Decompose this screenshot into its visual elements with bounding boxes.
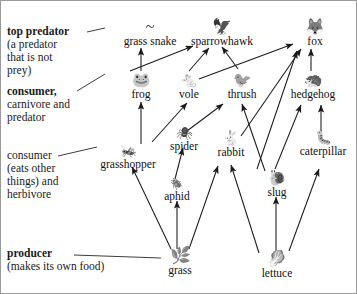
grasshopper-icon: 🦗	[89, 144, 167, 158]
arrow-thrush-to-sparrowhawk	[222, 47, 238, 69]
organism-grasshopper-label: grasshopper	[89, 158, 167, 170]
organism-caterpillar: 🐛 caterpillar	[291, 131, 355, 157]
organism-spider-label: spider	[161, 140, 207, 152]
key-consumer-carnivore-line1: carnivore and	[7, 98, 103, 111]
key-consumer-herbivore-line3: herbivore	[7, 188, 97, 201]
organism-rabbit-label: rabbit	[208, 146, 254, 158]
vole-icon: 🐁	[167, 73, 211, 88]
key-consumer-herbivore-line1: (eats other	[7, 162, 97, 175]
organism-frog-label: frog	[118, 88, 164, 100]
organism-lettuce: 🥬 lettuce	[251, 251, 303, 279]
frog-icon: 🐸	[118, 73, 164, 88]
rabbit-icon: 🐇	[208, 131, 254, 146]
arrow-vole-to-sparrowhawk	[189, 48, 209, 71]
key-producer-line1: (makes its own food)	[7, 260, 137, 273]
organism-grasshopper: 🦗 grasshopper	[89, 144, 167, 170]
caterpillar-icon: 🐛	[291, 131, 355, 145]
organism-aphid-label: aphid	[155, 190, 199, 202]
organism-hedgehog-label: hedgehog	[282, 88, 344, 100]
lettuce-icon: 🥬	[251, 251, 303, 267]
organism-fox: 🦊 fox	[289, 19, 341, 47]
organism-sparrowhawk-label: sparrowhawk	[187, 35, 257, 47]
food-web-diagram: top predator (a predator that is not pre…	[0, 0, 357, 294]
snake-icon: ~	[118, 19, 182, 35]
organism-grass: 🌿 grass	[157, 247, 203, 276]
organism-thrush: 🐦 thrush	[216, 73, 268, 100]
organism-thrush-label: thrush	[216, 88, 268, 100]
spider-icon: 🕷	[161, 127, 207, 140]
organism-vole: 🐁 vole	[167, 73, 211, 100]
grass-icon: 🌿	[157, 247, 203, 264]
key-producer: producer (makes its own food)	[7, 247, 137, 273]
organism-sparrowhawk: 🦅 sparrowhawk	[187, 19, 257, 47]
organism-hedgehog: 🦔 hedgehog	[282, 73, 344, 100]
key-consumer-herbivore-title: consumer	[7, 149, 97, 162]
key-top-predator: top predator (a predator that is not pre…	[7, 25, 97, 77]
organism-frog: 🐸 frog	[118, 73, 164, 100]
organism-caterpillar-label: caterpillar	[291, 145, 355, 157]
organism-rabbit: 🐇 rabbit	[208, 131, 254, 158]
hedgehog-icon: 🦔	[282, 73, 344, 88]
key-producer-title: producer	[7, 247, 52, 259]
organism-grass-snake: ~ grass snake	[118, 19, 182, 47]
key-consumer-carnivore: consumer, carnivore and predator	[7, 85, 103, 124]
organism-vole-label: vole	[167, 88, 211, 100]
fox-icon: 🦊	[289, 19, 341, 35]
slug-icon: 🐌	[255, 171, 299, 186]
arrow-frog-to-sparrowhawk	[130, 46, 193, 71]
organism-grass-label: grass	[157, 264, 203, 276]
key-consumer-carnivore-line2: predator	[7, 111, 103, 124]
organism-spider: 🕷 spider	[161, 127, 207, 152]
key-top-predator-line2: that is not	[7, 51, 97, 64]
key-consumer-herbivore: consumer (eats other things) and herbivo…	[7, 149, 97, 201]
arrow-aphid-to-spider	[175, 148, 183, 179]
organism-lettuce-label: lettuce	[251, 267, 303, 279]
key-top-predator-title: top predator	[7, 25, 69, 37]
organism-slug: 🐌 slug	[255, 171, 299, 198]
key-top-predator-line3: prey)	[7, 64, 97, 77]
key-top-predator-line1: (a predator	[7, 38, 97, 51]
organism-slug-label: slug	[255, 186, 299, 198]
key-consumer-carnivore-title: consumer,	[7, 85, 57, 97]
organism-fox-label: fox	[289, 35, 341, 47]
aphid-icon: 🪲	[155, 179, 199, 190]
organism-grass-snake-label: grass snake	[118, 35, 182, 47]
hawk-icon: 🦅	[187, 19, 257, 35]
key-consumer-herbivore-line2: things) and	[7, 175, 97, 188]
thrush-icon: 🐦	[216, 73, 268, 88]
organism-aphid: 🪲 aphid	[155, 179, 199, 202]
